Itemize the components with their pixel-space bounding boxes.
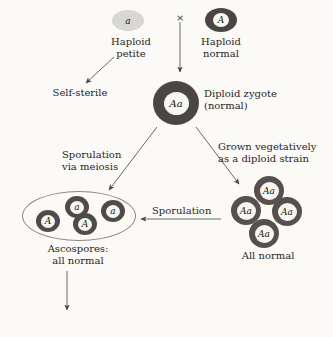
genotype-label: Aa — [260, 182, 279, 200]
label-haploid-normal: Haploid normal — [190, 36, 252, 60]
cell-diploid-zygote: Aa — [153, 81, 199, 125]
cross-symbol: × — [176, 12, 184, 23]
figure-canvas: a Haploid petite × A Haploid normal Self… — [0, 0, 333, 337]
genotype-label: Aa — [255, 225, 274, 243]
diploid-cell: Aa — [272, 197, 302, 226]
label-grown-vegetatively: Grown vegetatively as a diploid strain — [218, 141, 330, 165]
ascospore-cell: A — [73, 213, 97, 235]
label-ascospores: Ascospores: all normal — [26, 243, 130, 267]
genotype-label: A — [78, 218, 92, 231]
label-sporulation-return: Sporulation — [152, 205, 222, 217]
cell-haploid-petite: a — [112, 10, 144, 31]
genotype-label: Aa — [237, 202, 256, 220]
genotype-label: a — [70, 201, 84, 214]
label-haploid-petite: Haploid petite — [100, 36, 162, 60]
ascospore-cell: a — [101, 200, 125, 222]
cell-haploid-normal: A — [205, 8, 237, 32]
label-diploid-zygote: Diploid zygote (normal) — [204, 88, 314, 112]
arrow-petite-to-self-sterile — [86, 57, 114, 83]
genotype-label: a — [112, 10, 144, 31]
genotype-label: a — [106, 205, 120, 218]
label-self-sterile: Self-sterile — [45, 87, 115, 99]
label-sporulation-via-meiosis: Sporulation via meiosis — [62, 149, 148, 173]
genotype-label: Aa — [278, 203, 297, 221]
label-all-normal: All normal — [226, 250, 310, 262]
genotype-label: A — [41, 215, 55, 228]
genotype-label: A — [213, 13, 229, 27]
genotype-label: Aa — [164, 92, 189, 115]
arrow-layer — [0, 0, 333, 337]
diploid-cell: Aa — [249, 219, 279, 248]
ascospore-cell: A — [36, 210, 60, 232]
